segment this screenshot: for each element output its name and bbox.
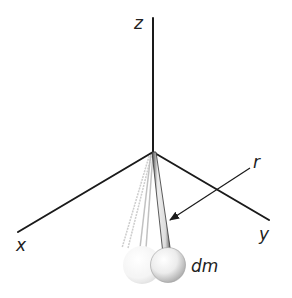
- mass-element-label: dm: [191, 256, 218, 276]
- radius-label: r: [253, 152, 261, 172]
- y-axis: [153, 152, 269, 220]
- radius-arrow: [170, 168, 250, 220]
- ghost-pendulum-2: [140, 153, 153, 248]
- mass-element-sphere: [151, 248, 186, 283]
- z-axis-label: z: [133, 13, 144, 33]
- pendulum-axes-diagram: z x y r dm: [0, 0, 292, 298]
- x-axis-label: x: [15, 235, 27, 255]
- axes: [18, 18, 269, 232]
- x-axis: [18, 152, 153, 232]
- y-axis-label: y: [258, 224, 270, 244]
- pendulum-rod: [152, 152, 171, 254]
